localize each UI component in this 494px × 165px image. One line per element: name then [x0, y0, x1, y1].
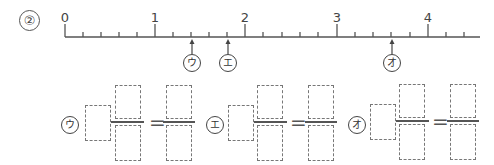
tick-label-3: 3	[333, 10, 341, 25]
tick-label-0: 0	[61, 10, 69, 25]
fraction-bar	[396, 120, 429, 122]
tick-label-4: 4	[424, 10, 432, 25]
improper-denominator-box[interactable]	[450, 124, 476, 160]
improper-denominator-box[interactable]	[166, 125, 192, 161]
numerator-box[interactable]	[115, 85, 141, 119]
group-label: ウ	[61, 116, 79, 134]
improper-numerator-box[interactable]	[166, 85, 192, 119]
denominator-box[interactable]	[399, 124, 425, 160]
fraction-bar	[163, 121, 195, 123]
denominator-box[interactable]	[115, 125, 141, 161]
numerator-box[interactable]	[257, 85, 283, 119]
whole-number-box[interactable]	[85, 105, 111, 141]
denominator-box[interactable]	[257, 125, 283, 161]
numerator-box[interactable]	[399, 84, 425, 118]
mark-label-u: ウ	[183, 54, 201, 72]
tick-label-1: 1	[151, 10, 159, 25]
group-label: エ	[206, 116, 224, 134]
mark-label-o: オ	[383, 54, 401, 72]
improper-numerator-box[interactable]	[450, 84, 476, 118]
fraction-bar	[305, 121, 337, 123]
improper-denominator-box[interactable]	[308, 125, 334, 161]
tick-label-2: 2	[241, 10, 249, 25]
whole-number-box[interactable]	[370, 104, 396, 140]
mark-label-e: エ	[219, 54, 237, 72]
group-label: オ	[348, 116, 366, 134]
improper-numerator-box[interactable]	[308, 85, 334, 119]
whole-number-box[interactable]	[228, 105, 254, 141]
fraction-bar	[447, 120, 479, 122]
fraction-bar	[254, 121, 287, 123]
fraction-bar	[111, 121, 144, 123]
